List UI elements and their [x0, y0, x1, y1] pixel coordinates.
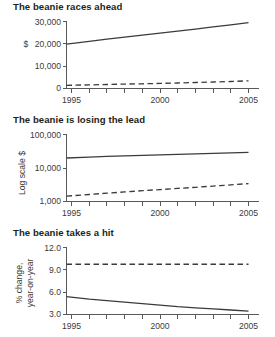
series-line-beanie-solid: [67, 297, 249, 312]
y-tick-label: 9.0: [49, 265, 61, 275]
x-tick-label: 1995: [62, 208, 81, 218]
x-tick-label: 2000: [150, 321, 169, 331]
y-axis-title: Log scale $: [17, 151, 27, 195]
y-tick-label: 3.0: [49, 309, 61, 319]
y-tick-label: 12.0: [44, 243, 61, 253]
y-axis-title-line2: year-on-year: [25, 259, 35, 308]
chart-panel-beanie-losing-the-lead: The beanie is losing the lead Log scale …: [0, 113, 275, 225]
y-tick-label: 0: [56, 83, 61, 93]
line-chart-linear-dollars: 30,000 20,000 10,000 0 $: [0, 0, 275, 112]
y-tick-label: 6.0: [49, 287, 61, 297]
y-axis-unit-label: $: [24, 39, 29, 49]
y-tick-label: 100,000: [30, 130, 61, 140]
y-tick-label: 10,000: [35, 163, 62, 173]
y-tick-label: 1,000: [39, 196, 61, 206]
x-tick-label: 1995: [62, 95, 81, 105]
figure-container: The beanie races ahead 30,000 20,000 10,…: [0, 0, 275, 337]
y-axis-title-line1: % change,: [14, 263, 24, 304]
y-tick-label: 30,000: [35, 17, 62, 27]
x-tick-label: 2005: [239, 208, 258, 218]
chart-panel-beanie-races-ahead: The beanie races ahead 30,000 20,000 10,…: [0, 0, 275, 112]
series-line-rival-dashed: [67, 184, 249, 197]
x-tick-label: 1995: [62, 321, 81, 331]
series-line-beanie-solid: [67, 152, 249, 158]
line-chart-percent-change: % change, year-on-year 12.0 9.0 6.0 3.0: [0, 226, 275, 337]
series-line-beanie-solid: [67, 23, 249, 44]
y-tick-label: 10,000: [35, 61, 62, 71]
chart-panel-beanie-takes-a-hit: The beanie takes a hit % change, year-on…: [0, 226, 275, 337]
x-tick-label: 2005: [239, 95, 258, 105]
x-tick-label: 2000: [150, 208, 169, 218]
y-tick-label: 20,000: [35, 39, 62, 49]
series-line-rival-dashed: [67, 81, 249, 86]
line-chart-log-dollars: Log scale $ 100,000 10,000 1,000: [0, 113, 275, 225]
x-tick-label: 2005: [239, 321, 258, 331]
x-tick-label: 2000: [150, 95, 169, 105]
